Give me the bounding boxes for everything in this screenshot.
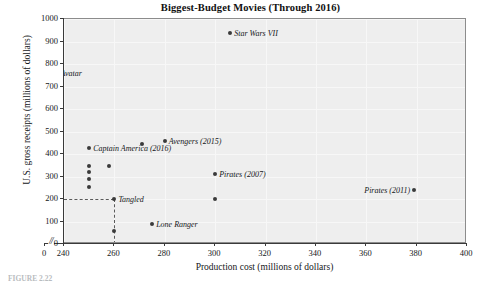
- x-axis-tick: [315, 243, 316, 246]
- x-axis-tick: [214, 243, 215, 246]
- data-point: [87, 170, 91, 174]
- data-point: [163, 139, 167, 143]
- x-axis-tick: [365, 243, 366, 246]
- data-point: [412, 188, 416, 192]
- x-axis-tick-label: 260: [107, 248, 120, 258]
- x-axis-tick-label: 240: [57, 248, 70, 258]
- data-point: [150, 222, 154, 226]
- gridline-vertical: [64, 19, 65, 242]
- guide-line-horizontal: [64, 199, 114, 200]
- y-axis-tick-label: 800: [27, 58, 58, 68]
- x-axis-label: Production cost (millions of dollars): [63, 262, 466, 272]
- data-point-label: Avengers (2015): [169, 136, 222, 145]
- gridline-vertical: [366, 19, 367, 242]
- guide-line-vertical: [114, 199, 115, 243]
- data-point: [87, 185, 91, 189]
- data-point: [213, 197, 217, 201]
- gridline-horizontal: [64, 42, 465, 43]
- y-axis-tick: [60, 153, 63, 154]
- y-axis-tick: [60, 108, 63, 109]
- chart-title: Biggest-Budget Movies (Through 2016): [0, 2, 501, 13]
- x-axis-tick-label: 380: [409, 248, 422, 258]
- y-axis-tick-label: 0: [27, 238, 58, 248]
- y-axis-tick: [60, 131, 63, 132]
- y-axis-tick: [60, 18, 63, 19]
- x-axis-tick: [63, 243, 64, 246]
- x-axis-tick-label: 300: [208, 248, 221, 258]
- x-axis-tick-label: 400: [460, 248, 473, 258]
- x-axis-tick-label: 340: [309, 248, 322, 258]
- x-axis-tick: [164, 243, 165, 246]
- x-axis-tick: [265, 243, 266, 246]
- y-axis-tick-label: 700: [27, 81, 58, 91]
- y-axis-tick: [60, 243, 63, 244]
- y-axis-tick-label: 1000: [27, 13, 58, 23]
- data-point: [112, 229, 116, 233]
- y-axis-tick: [60, 41, 63, 42]
- y-axis-tick-label: 900: [27, 36, 58, 46]
- x-axis-tick-label: 0: [42, 248, 46, 258]
- figure-caption: FIGURE 2.22: [8, 274, 498, 283]
- gridline-horizontal: [64, 109, 465, 110]
- x-axis-tick: [416, 243, 417, 246]
- gridline-horizontal: [64, 222, 465, 223]
- gridline-vertical: [417, 19, 418, 242]
- y-axis-tick-label: 200: [27, 193, 58, 203]
- data-point-label: Lone Ranger: [156, 219, 198, 228]
- data-point: [228, 31, 232, 35]
- data-point-label: Avatar: [63, 68, 82, 77]
- data-point-label: Star Wars VII: [234, 29, 278, 38]
- gridline-vertical: [266, 19, 267, 242]
- x-axis-line: [44, 243, 466, 244]
- x-axis-tick: [113, 243, 114, 246]
- scatter-plot-figure: Biggest-Budget Movies (Through 2016) Sta…: [0, 0, 501, 283]
- data-point-label: Tangled: [118, 194, 144, 203]
- y-axis-tick-label: 300: [27, 171, 58, 181]
- gridline-horizontal: [64, 132, 465, 133]
- y-axis-line: [63, 18, 64, 244]
- y-axis-tick-label: 400: [27, 148, 58, 158]
- y-axis-tick: [60, 198, 63, 199]
- y-axis-tick: [60, 86, 63, 87]
- gridline-vertical: [316, 19, 317, 242]
- data-point: [87, 164, 91, 168]
- data-point: [87, 177, 91, 181]
- gridline-horizontal: [64, 64, 465, 65]
- y-axis-tick: [60, 221, 63, 222]
- gridline-horizontal: [64, 87, 465, 88]
- plot-area: Star Wars VIIAvatarAvengers (2015)Captai…: [63, 18, 466, 243]
- data-point-label: Captain America (2016): [93, 144, 171, 153]
- data-point: [87, 146, 91, 150]
- y-axis-tick: [60, 63, 63, 64]
- x-axis-tick-label: 280: [157, 248, 170, 258]
- y-axis-tick: [60, 176, 63, 177]
- x-axis-tick: [466, 243, 467, 246]
- y-axis-tick-label: 100: [27, 216, 58, 226]
- data-point-label: Pirates (2011): [364, 185, 410, 194]
- gridline-horizontal: [64, 154, 465, 155]
- y-axis-tick-label: 600: [27, 103, 58, 113]
- gridline-horizontal: [64, 19, 465, 20]
- data-point: [107, 164, 111, 168]
- gridline-vertical: [215, 19, 216, 242]
- y-axis-tick-label: 500: [27, 126, 58, 136]
- data-point-label: Pirates (2007): [219, 170, 265, 179]
- x-axis-tick-label: 320: [258, 248, 271, 258]
- x-axis-tick-label: 360: [359, 248, 372, 258]
- gridline-vertical: [165, 19, 166, 242]
- data-point: [112, 197, 116, 201]
